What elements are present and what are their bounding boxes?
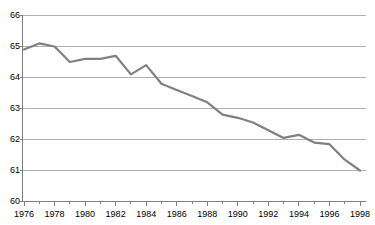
x-axis-tick-label: 1998 xyxy=(345,210,375,219)
x-axis-tick-label: 1980 xyxy=(70,210,100,219)
x-axis-tick-label: 1976 xyxy=(9,210,39,219)
x-axis-tick-label: 1994 xyxy=(284,210,314,219)
x-axis-tick-label: 1988 xyxy=(192,210,222,219)
line-chart: 60616263646566 1976197819801982198419861… xyxy=(0,0,375,225)
x-axis-tick-label: 1978 xyxy=(40,210,70,219)
x-axis-tick-label: 1996 xyxy=(314,210,344,219)
x-axis-tick-label: 1986 xyxy=(162,210,192,219)
x-axis-tick-label: 1990 xyxy=(223,210,253,219)
x-axis-tick-label: 1992 xyxy=(253,210,283,219)
x-axis-tick-label: 1982 xyxy=(101,210,131,219)
x-axis-tick-label: 1984 xyxy=(131,210,161,219)
x-axis-labels: 1976197819801982198419861988199019921994… xyxy=(0,0,375,225)
